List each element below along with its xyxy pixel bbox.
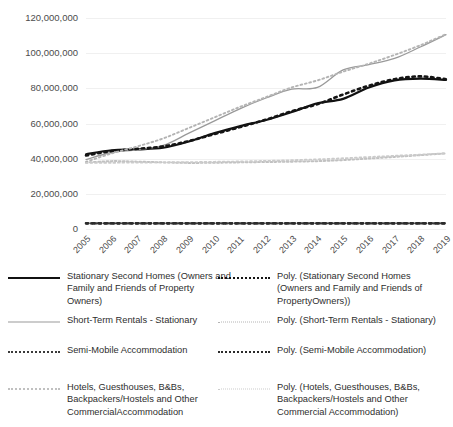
x-axis-tick-label: 2008 (148, 234, 170, 256)
x-axis-tick-label: 2010 (200, 234, 222, 256)
legend-label: Poly. (Hotels, Guesthouses, B&Bs, Backpa… (277, 381, 441, 418)
chart-legend: Stationary Second Homes (Owners and Fami… (0, 266, 453, 427)
x-axis-tick-label: 2018 (405, 234, 427, 256)
y-axis-tick-label: 40,000,000 (30, 154, 78, 164)
legend-label: Semi-Mobile Accommodation (67, 344, 187, 356)
y-axis-tick-label: 0 (73, 224, 78, 234)
legend-column-right: Poly. (Stationary Second Homes (Owners a… (218, 266, 444, 427)
y-axis-tick-label: 100,000,000 (25, 48, 78, 58)
legend-item[interactable]: Short-Term Rentals - Stationary (8, 314, 197, 327)
legend-label: Hotels, Guesthouses, B&Bs, Backpackers/H… (67, 381, 231, 418)
legend-label: Poly. (Short-Term Rentals - Stationary) (277, 314, 436, 326)
y-axis-labels: 020,000,00040,000,00060,000,00080,000,00… (0, 0, 82, 240)
series-line (86, 76, 446, 155)
x-axis-tick-label: 2017 (380, 234, 402, 256)
legend-swatch-poly-pale (218, 383, 270, 394)
legend-item[interactable]: Poly. (Semi-Mobile Accommodation) (218, 344, 426, 357)
legend-label: Stationary Second Homes (Owners and Fami… (67, 270, 231, 307)
y-axis-tick-label: 120,000,000 (25, 13, 78, 23)
series-line (86, 34, 446, 162)
legend-label: Poly. (Semi-Mobile Accommodation) (277, 344, 426, 356)
gridline (86, 229, 446, 230)
legend-swatch-solid-black (8, 272, 60, 283)
x-axis-tick-label: 2016 (354, 234, 376, 256)
legend-item[interactable]: Stationary Second Homes (Owners and Fami… (8, 270, 231, 307)
series-line (86, 79, 446, 155)
legend-swatch-solid-grey (8, 316, 60, 327)
x-axis-tick-label: 2007 (122, 234, 144, 256)
x-axis-labels: 2005200620072008200920102011201220132014… (86, 231, 446, 265)
x-axis-tick-label: 2013 (277, 234, 299, 256)
legend-item[interactable]: Poly. (Hotels, Guesthouses, B&Bs, Backpa… (218, 381, 441, 418)
legend-swatch-dot-light (8, 383, 60, 394)
x-axis-tick-label: 2009 (174, 234, 196, 256)
y-axis-tick-label: 60,000,000 (30, 119, 78, 129)
legend-swatch-poly-grey (218, 316, 270, 327)
legend-swatch-dot-dark (8, 346, 60, 357)
legend-item[interactable]: Semi-Mobile Accommodation (8, 344, 187, 357)
series-svg (86, 18, 446, 229)
y-axis-tick-label: 80,000,000 (30, 83, 78, 93)
legend-label: Poly. (Stationary Second Homes (Owners a… (277, 270, 441, 307)
plot-area (86, 18, 446, 229)
legend-item[interactable]: Poly. (Short-Term Rentals - Stationary) (218, 314, 436, 327)
x-axis-tick-label: 2015 (328, 234, 350, 256)
legend-swatch-poly-black (218, 272, 270, 283)
x-axis-tick-label: 2014 (302, 234, 324, 256)
legend-swatch-poly-dark (218, 346, 270, 357)
x-axis-tick-label: 2019 (431, 234, 453, 256)
legend-column-left: Stationary Second Homes (Owners and Fami… (8, 266, 234, 427)
legend-item[interactable]: Poly. (Stationary Second Homes (Owners a… (218, 270, 441, 307)
y-axis-tick-label: 20,000,000 (30, 189, 78, 199)
plot-wrapper: 020,000,00040,000,00060,000,00080,000,00… (0, 0, 453, 266)
x-axis-tick-label: 2011 (225, 234, 246, 255)
x-axis-tick-label: 2006 (97, 234, 119, 256)
legend-item[interactable]: Hotels, Guesthouses, B&Bs, Backpackers/H… (8, 381, 231, 418)
legend-label: Short-Term Rentals - Stationary (67, 314, 197, 326)
line-chart: 020,000,00040,000,00060,000,00080,000,00… (0, 0, 453, 427)
x-axis-tick-label: 2012 (251, 234, 273, 256)
